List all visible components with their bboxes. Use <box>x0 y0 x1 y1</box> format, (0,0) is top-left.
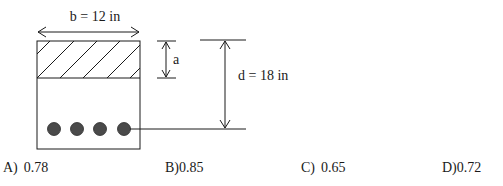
answer-letter: D) <box>442 160 457 175</box>
beam-cross-section <box>13 41 167 149</box>
rebar-3 <box>94 123 107 136</box>
answer-letter: B) <box>165 160 179 175</box>
answer-value: 0.65 <box>321 160 346 175</box>
rebar-group <box>48 123 131 136</box>
width-dimension: b = 12 in <box>38 9 139 37</box>
rebar-4 <box>118 123 131 136</box>
rebar-1 <box>48 123 61 136</box>
answer-option-c[interactable]: C)0.65 <box>301 160 346 176</box>
stress-block-label: a <box>173 52 180 67</box>
answer-letter: A) <box>3 160 18 175</box>
answer-letter: C) <box>301 160 315 175</box>
answer-value: 0.78 <box>24 160 49 175</box>
answer-option-b[interactable]: B)0.85 <box>165 160 204 176</box>
answer-value: 0.85 <box>179 160 204 175</box>
compression-zone-hatching <box>13 41 167 78</box>
beam-section-diagram: b = 12 in a <box>0 0 503 158</box>
answer-option-a[interactable]: A)0.78 <box>3 160 48 176</box>
width-label: b = 12 in <box>70 9 120 24</box>
answer-value: 0.72 <box>457 160 482 175</box>
rebar-2 <box>71 123 84 136</box>
effective-depth-dimension <box>130 40 246 129</box>
effective-depth-label: d = 18 in <box>238 68 288 83</box>
answer-option-d[interactable]: D)0.72 <box>442 160 481 176</box>
